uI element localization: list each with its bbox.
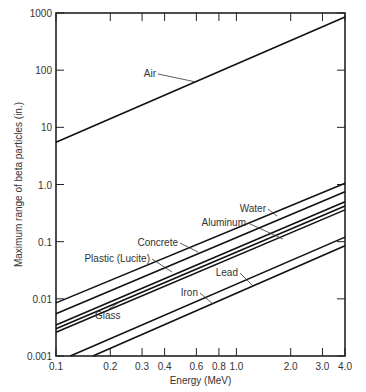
x-tick-label: 0.1 (49, 361, 63, 372)
y-axis-label: Maximum range of beta particles (in.) (13, 102, 24, 267)
x-tick-label: 0.8 (212, 361, 226, 372)
x-tick-label: 0.2 (103, 361, 117, 372)
y-tick-label: 1.0 (38, 180, 52, 191)
y-tick-label: 100 (35, 65, 52, 76)
x-tick-label: 4.0 (338, 361, 352, 372)
series-label-water: Water (240, 203, 267, 214)
x-tick-label: 0.6 (189, 361, 203, 372)
series-label-lead: Lead (216, 267, 238, 278)
label-leader-line (158, 74, 196, 82)
chart-figure: 0.0010.010.11.01010010000.10.20.30.40.60… (0, 0, 366, 392)
plot-frame (56, 13, 345, 356)
x-axis-label: Energy (MeV) (170, 375, 232, 386)
y-tick-label: 1000 (30, 8, 53, 19)
beta-range-chart: 0.0010.010.11.01010010000.10.20.30.40.60… (0, 0, 366, 392)
series-label-plastic-lucite-: Plastic (Lucite) (84, 253, 150, 264)
x-tick-label: 2.0 (284, 361, 298, 372)
y-tick-label: 0.01 (33, 294, 53, 305)
x-tick-label: 3.0 (316, 361, 330, 372)
series-line-air (56, 17, 345, 142)
y-tick-label: 0.1 (38, 237, 52, 248)
series-label-iron: Iron (181, 287, 198, 298)
x-tick-label: 1.0 (229, 361, 243, 372)
series-label-concrete: Concrete (137, 237, 178, 248)
series-label-air: Air (144, 68, 157, 79)
series-label-glass: Glass (95, 310, 121, 321)
y-tick-label: 10 (41, 122, 53, 133)
series-line-water (56, 183, 345, 303)
series-label-aluminum: Aluminum (202, 217, 246, 228)
x-tick-label: 0.3 (135, 361, 149, 372)
x-tick-label: 0.4 (158, 361, 172, 372)
